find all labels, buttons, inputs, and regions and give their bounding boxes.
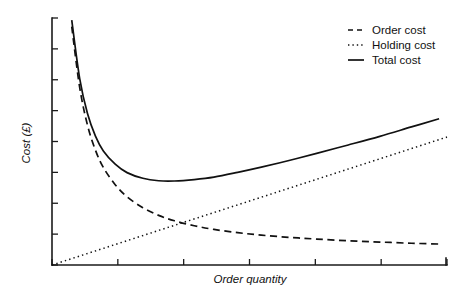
series-line-holding-cost [52, 137, 447, 265]
legend-item-order-cost[interactable]: Order cost [348, 24, 426, 36]
legend-item-total-cost[interactable]: Total cost [348, 54, 421, 66]
y-axis-ticks [52, 18, 58, 265]
legend-label-order-cost: Order cost [372, 24, 426, 36]
eoq-cost-chart: Order quantity Cost (£) Order cost Holdi… [0, 0, 462, 296]
y-axis-title: Cost (£) [20, 122, 32, 163]
x-axis-title: Order quantity [214, 273, 288, 285]
legend-item-holding-cost[interactable]: Holding cost [348, 39, 436, 51]
legend-label-holding-cost: Holding cost [372, 39, 436, 51]
x-axis-ticks [52, 259, 447, 265]
legend: Order cost Holding cost Total cost [348, 24, 436, 66]
chart-figure: Order quantity Cost (£) Order cost Holdi… [0, 0, 462, 296]
legend-label-total-cost: Total cost [372, 54, 421, 66]
